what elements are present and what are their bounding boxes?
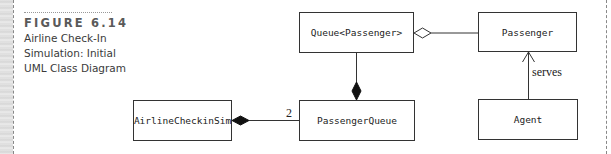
composition-passengerqueue-queue [352,53,361,100]
aggregation-queue-passenger [414,28,478,38]
composition-sim-passengerqueue: 2 [232,106,299,125]
class-name: AirlineCheckinSim [134,115,232,126]
class-name: Agent [514,114,543,125]
association-label: serves [532,65,562,79]
class-name: Passenger [502,27,554,38]
class-name: Queue<Passenger> [311,27,403,38]
filled-diamond-icon [232,116,249,125]
class-passenger-queue: PassengerQueue [300,101,415,141]
class-queue-passenger: Queue<Passenger> [300,13,414,53]
association-agent-serves-passenger: serves [523,52,563,99]
uml-class-diagram: Queue<Passenger> Passenger AirlineChecki… [0,0,611,154]
multiplicity-label: 2 [286,106,292,120]
class-passenger: Passenger [479,13,577,52]
filled-diamond-icon [352,82,361,100]
hollow-diamond-icon [414,28,431,38]
class-name: PassengerQueue [317,115,397,126]
class-airline-checkin-sim: AirlineCheckinSim [134,101,232,141]
class-agent: Agent [479,100,578,140]
